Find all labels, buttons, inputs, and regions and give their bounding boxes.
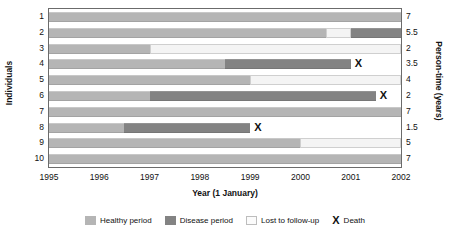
death-marker-icon: X [355, 58, 362, 68]
y-axis-title: Individuals [4, 48, 14, 118]
segment-lost [326, 28, 351, 38]
individual-bar-row [49, 138, 401, 148]
individual-label-2: 2 [18, 27, 44, 37]
legend-swatch-disease [165, 216, 176, 225]
segment-healthy [49, 107, 401, 117]
legend-swatch-healthy [85, 216, 96, 225]
legend-label: Healthy period [100, 216, 152, 225]
person-time-label-1: 7 [406, 11, 436, 21]
person-time-label-9: 5 [406, 137, 436, 147]
segment-healthy [49, 123, 124, 133]
death-marker-icon: X [254, 122, 261, 132]
segment-disease [124, 123, 250, 133]
segment-healthy [49, 138, 300, 148]
legend-item-lost: Lost to follow-up [246, 216, 319, 225]
segment-healthy [49, 91, 150, 101]
segment-lost [300, 138, 401, 148]
person-time-label-7: 7 [406, 106, 436, 116]
segment-healthy [49, 59, 225, 69]
x-tick-1996: 1996 [79, 172, 119, 182]
legend-label: Lost to follow-up [261, 216, 319, 225]
segment-disease [150, 91, 376, 101]
individual-bar-row: X [49, 123, 401, 133]
individual-bar-row [49, 44, 401, 54]
individual-label-10: 10 [18, 153, 44, 163]
segment-healthy [49, 44, 150, 54]
individual-bar-row: X [49, 91, 401, 101]
legend-swatch-lost [246, 216, 257, 225]
person-time-label-8: 1.5 [406, 122, 436, 132]
legend-item-disease: Disease period [165, 216, 233, 225]
x-tick-1995: 1995 [29, 172, 69, 182]
individual-bar-row [49, 28, 401, 38]
legend-label: Disease period [180, 216, 233, 225]
x-axis-title: Year (1 January) [48, 188, 402, 198]
segment-healthy [49, 28, 326, 38]
legend-item-healthy: Healthy period [85, 216, 152, 225]
x-tick-1999: 1999 [230, 172, 270, 182]
person-time-label-4: 3.5 [406, 58, 436, 68]
individual-bar-row [49, 107, 401, 117]
person-time-label-10: 7 [406, 153, 436, 163]
individual-label-1: 1 [18, 11, 44, 21]
individual-label-4: 4 [18, 58, 44, 68]
segment-healthy [49, 12, 401, 22]
segment-healthy [49, 154, 401, 164]
segment-disease [225, 59, 351, 69]
individual-label-7: 7 [18, 106, 44, 116]
segment-lost [250, 75, 401, 85]
person-time-label-5: 4 [406, 74, 436, 84]
person-time-label-2: 5.5 [406, 27, 436, 37]
lexis-diagram-figure: Individuals Person-time (years) XXX 1234… [0, 0, 450, 239]
segment-lost [150, 44, 401, 54]
legend-label: Death [344, 216, 365, 225]
individual-bar-row [49, 75, 401, 85]
death-marker-icon: X [332, 216, 339, 225]
plot-area: XXX [48, 8, 402, 168]
individual-label-6: 6 [18, 90, 44, 100]
individual-bar-row [49, 12, 401, 22]
person-time-label-3: 2 [406, 43, 436, 53]
segment-healthy [49, 75, 250, 85]
chart-legend: Healthy periodDisease periodLost to foll… [48, 212, 402, 228]
segment-disease [351, 28, 401, 38]
x-tick-2002: 2002 [381, 172, 421, 182]
x-tick-2001: 2001 [331, 172, 371, 182]
individual-bar-row: X [49, 59, 401, 69]
x-tick-1998: 1998 [180, 172, 220, 182]
x-tick-1997: 1997 [130, 172, 170, 182]
individual-label-5: 5 [18, 74, 44, 84]
individual-label-8: 8 [18, 122, 44, 132]
legend-item-death: XDeath [332, 216, 365, 225]
individual-label-9: 9 [18, 137, 44, 147]
individual-label-3: 3 [18, 43, 44, 53]
individual-bar-row [49, 154, 401, 164]
person-time-label-6: 2 [406, 90, 436, 100]
x-tick-2000: 2000 [280, 172, 320, 182]
death-marker-icon: X [380, 90, 387, 100]
